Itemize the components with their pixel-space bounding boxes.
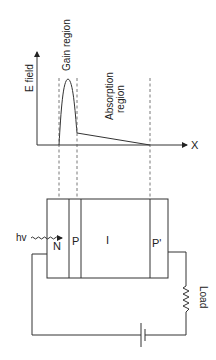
absorption-region-label-2: region: [115, 85, 126, 113]
gain-region-label: Gain region: [61, 19, 72, 71]
absorption-region-label-1: Absorption: [104, 72, 115, 120]
apd-diagram: E field X Gain region Absorption region …: [0, 0, 216, 360]
photon-label: hv: [16, 232, 27, 243]
bottom-right-wire: [145, 312, 186, 335]
left-wire: [32, 254, 141, 335]
load-resistor-icon: [183, 286, 189, 312]
layer-p-label: P: [72, 235, 79, 247]
y-axis-label: E field: [24, 64, 35, 92]
x-axis-label: X: [191, 139, 199, 151]
layer-n-label: N: [53, 240, 61, 252]
layer-p-prime-label: P': [152, 237, 161, 249]
layer-i-label: I: [106, 234, 109, 246]
load-label: Load: [198, 286, 209, 308]
top-right-wire: [168, 252, 186, 286]
